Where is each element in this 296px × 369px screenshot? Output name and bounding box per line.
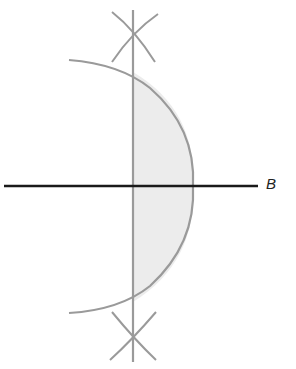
line-b-label: B — [266, 176, 276, 191]
construction-diagram — [0, 0, 296, 369]
